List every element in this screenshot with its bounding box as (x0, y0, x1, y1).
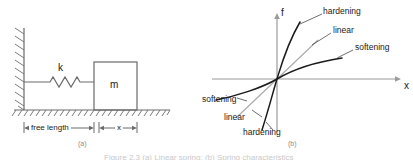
curve-label-softening-upper: softening (355, 43, 390, 52)
figure-container: k m free length x (a) f x hardening line… (0, 0, 413, 160)
wall-hatching (15, 28, 24, 110)
axis-y-label: f (281, 8, 284, 18)
axis-x-label: x (404, 81, 409, 91)
panel-a-sublabel: (a) (78, 140, 87, 147)
axis-y-arrowhead (274, 13, 280, 19)
spring-constant-label: k (58, 63, 63, 73)
displacement-x-label: x (115, 124, 123, 132)
axis-x-arrowhead (395, 76, 401, 82)
panel-b-sublabel: (b) (288, 140, 297, 147)
ground-hatching (12, 110, 170, 116)
spring-coil (24, 77, 94, 87)
mass-label: m (110, 80, 118, 90)
curve-label-linear-upper: linear (333, 26, 354, 35)
curve-label-softening-lower: softening (202, 95, 237, 104)
curve-label-hardening-upper: hardening (323, 7, 361, 16)
curve-label-linear-lower: linear (224, 113, 245, 122)
figure-caption: Figure 2.3 (a) Linear spring; (b) Spring… (104, 154, 293, 160)
leader-lines-upper (300, 14, 353, 58)
free-length-label: free length (29, 124, 71, 132)
figure-vector-layer (0, 0, 413, 160)
curve-label-hardening-lower: hardening (243, 128, 281, 137)
